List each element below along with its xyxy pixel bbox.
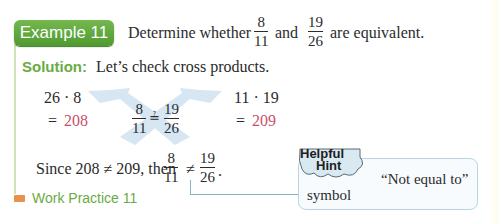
prompt-suffix: are equivalent. <box>330 24 424 42</box>
hint-text-line2: symbol <box>307 187 351 204</box>
fraction-bar <box>164 167 178 168</box>
work-practice-marker-icon <box>14 195 25 202</box>
fraction-bar <box>254 31 268 32</box>
numerator: 19 <box>308 14 323 30</box>
hint-connector-line <box>190 180 301 195</box>
right-product: 11 · 19 <box>234 89 279 107</box>
prompt-connector: and <box>275 24 298 42</box>
page-edge-strip <box>492 0 499 223</box>
prompt-fraction-a: 8 11 <box>254 14 268 49</box>
prompt-fraction-b: 19 26 <box>308 14 323 49</box>
denominator: 26 <box>308 33 323 49</box>
denominator: 11 <box>132 120 146 136</box>
denominator: 11 <box>254 33 268 49</box>
center-relation: ≟ <box>149 110 160 126</box>
numerator: 8 <box>257 14 265 30</box>
right-equals: = <box>236 112 245 130</box>
right-result: 209 <box>252 112 276 130</box>
work-practice-label[interactable]: Work Practice 11 <box>32 190 137 206</box>
fraction-bar <box>132 118 146 119</box>
center-fraction-b: 19 26 <box>164 101 179 136</box>
fraction-bar <box>200 167 215 168</box>
left-product: 26 · 8 <box>44 89 81 107</box>
conclusion-relation: ≠ <box>186 160 195 178</box>
conclusion-suffix: . <box>218 162 222 180</box>
solution-intro: Let’s check cross products. <box>96 58 269 76</box>
example-badge: Example 11 <box>14 20 114 46</box>
fraction-bar <box>164 118 179 119</box>
hint-title-line2: Hint <box>316 160 341 172</box>
numerator: 19 <box>164 101 179 117</box>
left-result: 208 <box>64 112 88 130</box>
numerator: 8 <box>135 101 143 117</box>
conclusion-prefix: Since 208 ≠ 209, then <box>36 160 176 178</box>
numerator: 19 <box>200 150 215 166</box>
hint-text-line1: “Not equal to” <box>381 171 468 188</box>
prompt-prefix: Determine whether <box>128 24 251 42</box>
example-side-rule <box>14 44 16 194</box>
solution-label: Solution: <box>22 58 87 75</box>
center-fraction-a: 8 11 <box>132 101 146 136</box>
conclusion-fraction-a: 8 11 <box>164 150 178 185</box>
fraction-bar <box>308 31 323 32</box>
denominator: 11 <box>164 169 178 185</box>
left-equals: = <box>48 112 57 130</box>
denominator: 26 <box>164 120 179 136</box>
numerator: 8 <box>167 150 175 166</box>
